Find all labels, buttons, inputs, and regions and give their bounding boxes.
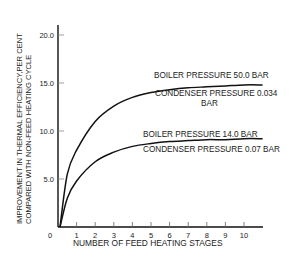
labels: BOILER PRESSURE 50.0 BAR CONDENSER PRESS…	[15, 33, 280, 248]
series-1-label-line3: BAR	[201, 99, 218, 108]
origin-label: 0	[48, 231, 52, 240]
y-axis-label-line2: COMPARED WITH NON-FEED HEATING CYCLE	[24, 55, 33, 224]
series-1-label-line1: BOILER PRESSURE 50.0 BAR	[154, 71, 269, 80]
series-2-label-line1: BOILER PRESSURE 14.0 BAR	[143, 130, 258, 139]
y-tick-label: 10.0	[39, 127, 54, 136]
series-1-curve	[60, 85, 263, 227]
y-tick-label: 20.0	[39, 31, 54, 40]
x-axis-label: NUMBER OF FEED HEATING STAGES	[73, 238, 223, 248]
x-tick-label: 10	[240, 231, 248, 240]
x-tick-label: 9	[223, 231, 227, 240]
y-tick-label: 5.0	[44, 175, 54, 184]
y-tick-label: 15.0	[39, 79, 54, 88]
y-axis-label-line1: IMPROVEMENT IN THERMAL EFFICIENCY,PER CE…	[15, 33, 24, 224]
feed-heating-efficiency-chart: 1234567891005.010.015.020.0 BOILER PRESS…	[0, 0, 291, 260]
series-2-label-line2: CONDENSER PRESSURE 0.07 BAR	[143, 145, 280, 154]
series-1-label-line2: CONDENSER PRESSURE 0.034	[155, 89, 278, 98]
curves	[60, 85, 263, 227]
